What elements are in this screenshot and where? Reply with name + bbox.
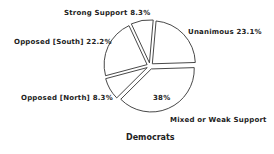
label-opposed-north: Opposed [North] 8.3% xyxy=(21,94,113,102)
pie-chart xyxy=(0,0,274,154)
chart-title: Democrats xyxy=(126,133,175,142)
label-opposed-south: Opposed [South] 22.2% xyxy=(14,38,112,46)
label-mixed-weak-support: Mixed or Weak Support xyxy=(170,116,267,124)
pie-slices xyxy=(104,20,195,112)
label-unanimous: Unanimous 23.1% xyxy=(188,28,262,36)
label-mixed-inner: 38% xyxy=(153,94,170,102)
label-strong-support: Strong Support 8.3% xyxy=(64,9,150,17)
